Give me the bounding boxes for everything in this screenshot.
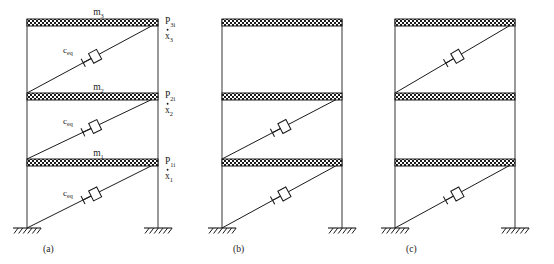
ground-hatch-tick (232, 228, 236, 234)
dashpot-cylinder (451, 187, 464, 201)
dashpot-cylinder (451, 49, 464, 63)
velocity-overdot (167, 169, 169, 171)
dashpot-story-3-panel-c (443, 49, 464, 67)
ground-hatch-tick (400, 228, 404, 234)
panel-caption-b: (b) (233, 244, 244, 255)
ground-hatch-tick (145, 228, 149, 234)
dashpot-story-1-panel-b (270, 187, 291, 204)
mass-label-1-panel-a: m1 (93, 148, 104, 160)
panel-caption-a: (a) (43, 244, 54, 255)
frame-panel-a (13, 19, 172, 234)
ground-support-left-panel-a (13, 228, 41, 234)
slab-band (395, 159, 515, 166)
ground-hatch-tick (343, 228, 347, 234)
floor-slab-1-panel-c (395, 159, 515, 166)
slab-band (222, 93, 342, 100)
ground-hatch-tick (168, 228, 172, 234)
floor-slab-3-panel-b (222, 19, 342, 26)
dashpot-cylinder (89, 187, 102, 201)
ground-hatch-tick (32, 228, 36, 234)
ground-support-right-panel-c (501, 228, 529, 234)
ground-hatch-tick (352, 228, 356, 234)
damper-label-story-1-panel-a: ceq (63, 188, 73, 199)
dashpot-piston-plate (443, 196, 447, 204)
ground-hatch-tick (218, 228, 222, 234)
slab-band (395, 19, 515, 26)
figure-canvas: m1m2m3ceqceqceqP1iP2iP3ix1x2x3(a)(b)(c) (0, 0, 554, 264)
floor-slab-2-panel-c (395, 93, 515, 100)
dashpot-rod (446, 196, 454, 200)
frame-panel-c (381, 19, 529, 234)
ground-hatch-tick (396, 228, 400, 234)
force-label-3i-panel-a: P3i (165, 16, 175, 28)
ground-support-right-panel-b (328, 228, 356, 234)
ground-hatch-tick (405, 228, 409, 234)
floor-slab-2-panel-b (222, 93, 342, 100)
dashpot-piston-plate (81, 196, 85, 204)
dashpot-rod (83, 58, 91, 62)
dashpot-piston-plate (270, 129, 274, 137)
ground-hatch-tick (382, 228, 386, 234)
ground-hatch-tick (338, 228, 342, 234)
dashpot-piston-plate (81, 59, 85, 67)
damper-label-story-3-panel-a: ceq (63, 45, 73, 56)
slab-band (222, 19, 342, 26)
mass-label-2-panel-a: m2 (93, 82, 104, 94)
ground-support-left-panel-c (381, 228, 409, 234)
dashpot-story-2-panel-b (270, 120, 291, 137)
floor-slab-1-panel-a (27, 159, 158, 166)
slab-band (395, 93, 515, 100)
dashpot-rod (83, 196, 91, 200)
slab-band (222, 159, 342, 166)
ground-hatch-tick (19, 228, 23, 234)
floor-slab-2-panel-a (27, 93, 158, 100)
ground-hatch-tick (347, 228, 351, 234)
dashpot-story-1-panel-c (443, 187, 464, 204)
mass-label-3-panel-a: m3 (93, 7, 104, 19)
velocity-overdot (167, 103, 169, 105)
ground-hatch-tick (227, 228, 231, 234)
dashpot-story-3-panel-a (81, 49, 102, 66)
dashpot-piston-plate (443, 59, 448, 67)
ground-hatch-tick (511, 228, 515, 234)
velocity-label-2-panel-a: x2 (165, 103, 173, 117)
velocity-symbol: x1 (165, 171, 173, 183)
ground-hatch-tick (520, 228, 524, 234)
ground-hatch-tick (28, 228, 32, 234)
dashpot-cylinder (89, 49, 102, 63)
ground-support-left-panel-b (208, 228, 236, 234)
velocity-symbol: x3 (165, 31, 173, 43)
frame-panel-b (208, 19, 356, 234)
slab-band (27, 19, 158, 26)
ground-hatch-tick (391, 228, 395, 234)
dashpot-cylinder (278, 187, 291, 201)
floor-slab-3-panel-a (27, 19, 158, 26)
ground-hatch-tick (14, 228, 18, 234)
ground-hatch-tick (214, 228, 218, 234)
ground-hatch-tick (209, 228, 213, 234)
damper-label-story-2-panel-a: ceq (63, 116, 73, 127)
ground-hatch-tick (163, 228, 167, 234)
dashpot-cylinder (278, 120, 291, 134)
ground-hatch-tick (23, 228, 27, 234)
ground-hatch-tick (516, 228, 520, 234)
ground-hatch-tick (507, 228, 511, 234)
dashpot-rod (446, 59, 454, 64)
velocity-label-1-panel-a: x1 (165, 169, 173, 183)
dashpot-rod (272, 129, 280, 133)
velocity-label-3-panel-a: x3 (165, 29, 173, 43)
ground-hatch-tick (329, 228, 333, 234)
ground-hatch-tick (154, 228, 158, 234)
ground-hatch-tick (159, 228, 163, 234)
damper-placement-figure: m1m2m3ceqceqceqP1iP2iP3ix1x2x3(a)(b)(c) (0, 0, 554, 264)
ground-hatch-tick (387, 228, 391, 234)
dashpot-piston-plate (270, 196, 274, 204)
velocity-symbol: x2 (165, 105, 173, 117)
ground-hatch-tick (150, 228, 154, 234)
dashpot-rod (273, 196, 281, 200)
velocity-overdot (167, 29, 169, 31)
panel-caption-c: (c) (406, 244, 417, 255)
ground-support-right-panel-a (144, 228, 172, 234)
floor-slab-3-panel-c (395, 19, 515, 26)
dashpot-story-1-panel-a (81, 187, 102, 204)
